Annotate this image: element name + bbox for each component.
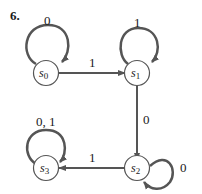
loop-label-s0: 0 (44, 13, 51, 28)
loop-label-s2: 0 (180, 160, 187, 175)
loop-s0: 0 (26, 13, 68, 64)
state-s3: s3 (34, 156, 59, 181)
state-s1: s1 (125, 61, 150, 86)
edge-s2-s3: 1 (59, 150, 124, 168)
loop-s1: 1 (121, 15, 158, 64)
edge-s1-s2: 0 (137, 86, 150, 160)
edge-label-s1-s2: 0 (143, 112, 150, 127)
loop-label-s3: 0, 1 (36, 114, 56, 129)
edge-label-s0-s1: 1 (89, 55, 96, 70)
edge-s0-s1: 1 (59, 55, 125, 73)
state-s2: s2 (125, 156, 150, 181)
state-s0: s0 (34, 61, 59, 86)
loop-s2: 0 (144, 160, 187, 189)
edge-label-s2-s3: 1 (89, 150, 96, 165)
problem-number: 6. (10, 8, 20, 23)
state-diagram: 6. 0 1 0 0, 1 1 0 1 s0 s1 s2 (0, 0, 202, 194)
loop-label-s1: 1 (134, 15, 141, 30)
